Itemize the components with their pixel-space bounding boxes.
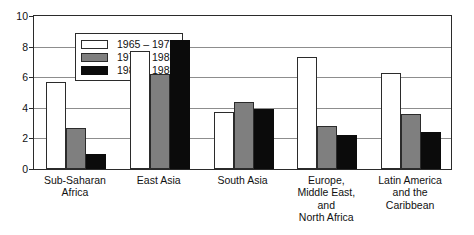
bar [297, 57, 317, 169]
bar [421, 132, 441, 169]
bar [337, 135, 357, 169]
legend-item: 1973 – 1982 [81, 51, 175, 63]
bar [317, 126, 337, 169]
y-tick-label-6: 6 [2, 72, 28, 82]
white-swatch [81, 40, 108, 49]
plot-area: 1965 – 19731973 – 19821982 – 1988 [33, 15, 452, 170]
bar [46, 82, 66, 169]
y-tick-label-8: 8 [2, 42, 28, 52]
bar [86, 154, 106, 169]
bar [214, 112, 234, 169]
bar-chart: 0246810 1965 – 19731973 – 19821982 – 198… [0, 0, 474, 235]
bar-group [381, 16, 441, 169]
y-tick-label-2: 2 [2, 133, 28, 143]
bar-group [214, 16, 274, 169]
bar-group [297, 16, 357, 169]
gray-swatch [81, 53, 108, 62]
bar [170, 40, 190, 169]
black-swatch [81, 66, 108, 75]
bar [66, 128, 86, 169]
bar [381, 73, 401, 169]
bar [150, 74, 170, 169]
bar [401, 114, 421, 169]
legend-label: 1965 – 1973 [117, 39, 175, 50]
bar [130, 51, 150, 169]
y-tick-label-0: 0 [2, 164, 28, 174]
category-label: Latin America and the Caribbean [360, 174, 460, 211]
bar [254, 109, 274, 169]
legend-item: 1965 – 1973 [81, 38, 175, 50]
bar [234, 102, 254, 169]
y-tick-label-4: 4 [2, 103, 28, 113]
y-tick-label-10: 10 [2, 11, 28, 21]
